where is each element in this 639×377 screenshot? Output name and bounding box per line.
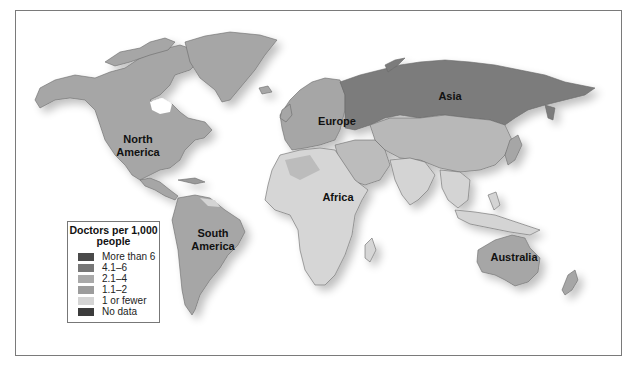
north-america bbox=[35, 45, 212, 180]
label-south-america: South America bbox=[188, 227, 238, 253]
legend-item: 4.1–6 bbox=[78, 263, 127, 273]
legend-label: 1.1–2 bbox=[102, 285, 127, 295]
legend-item: More than 6 bbox=[78, 252, 155, 262]
label-line: Africa bbox=[318, 191, 358, 204]
label-africa: Africa bbox=[318, 191, 358, 204]
swatch bbox=[78, 297, 94, 305]
legend-label: 2.1–4 bbox=[102, 274, 127, 284]
label-line: Australia bbox=[484, 251, 544, 264]
label-australia: Australia bbox=[484, 251, 544, 264]
label-north-america: North America bbox=[113, 133, 163, 159]
legend-item: 1 or fewer bbox=[78, 296, 146, 306]
label-line: Europe bbox=[312, 115, 362, 128]
legend-title: Doctors per 1,000 people bbox=[68, 225, 159, 247]
swatch bbox=[78, 308, 94, 316]
label-line: America bbox=[113, 146, 163, 159]
swatch bbox=[78, 264, 94, 272]
swatch bbox=[78, 275, 94, 283]
label-line: South bbox=[188, 227, 238, 240]
south-america bbox=[172, 195, 245, 315]
legend-label: 1 or fewer bbox=[102, 296, 146, 306]
label-line: America bbox=[188, 240, 238, 253]
legend-item: 2.1–4 bbox=[78, 274, 127, 284]
legend-label: More than 6 bbox=[102, 252, 155, 262]
legend-title-line2: people bbox=[68, 236, 159, 247]
label-line: North bbox=[113, 133, 163, 146]
legend-label: 4.1–6 bbox=[102, 263, 127, 273]
label-asia: Asia bbox=[430, 90, 470, 103]
legend: Doctors per 1,000 people More than 6 4.1… bbox=[67, 221, 160, 323]
swatch bbox=[78, 286, 94, 294]
label-europe: Europe bbox=[312, 115, 362, 128]
swatch bbox=[78, 253, 94, 261]
legend-label: No data bbox=[102, 307, 137, 317]
legend-item: No data bbox=[78, 307, 137, 317]
label-line: Asia bbox=[430, 90, 470, 103]
legend-item: 1.1–2 bbox=[78, 285, 127, 295]
